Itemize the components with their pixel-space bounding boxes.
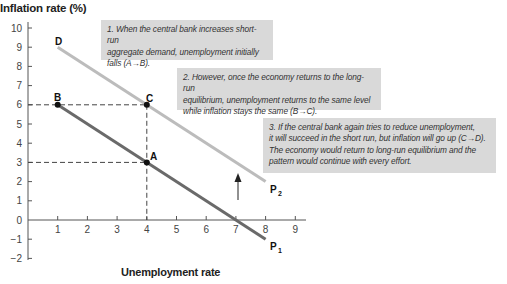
y-tick-6: 6 xyxy=(16,99,22,110)
curve-p1 xyxy=(58,105,266,239)
x-axis-title: Unemployment rate xyxy=(121,266,220,278)
curve-p1-label: P 1 xyxy=(270,241,282,254)
x-tick-2: 2 xyxy=(85,224,91,235)
point-a xyxy=(144,159,150,165)
x-tick-5: 5 xyxy=(174,224,180,235)
y-tick-2: 2 xyxy=(16,176,22,187)
curve-p2-label: P 2 xyxy=(270,184,282,197)
x-axis: 1 2 3 4 5 6 7 8 9 xyxy=(28,216,306,235)
x-tick-3: 3 xyxy=(114,224,120,235)
y-tick-10: 10 xyxy=(11,23,23,34)
x-tick-1: 1 xyxy=(55,224,61,235)
x-tick-4: 4 xyxy=(144,224,150,235)
y-axis: 10 9 8 7 6 5 4 3 2 1 0 −1 −2 xyxy=(11,22,32,264)
y-tick-9: 9 xyxy=(16,42,22,53)
x-tick-6: 6 xyxy=(203,224,209,235)
svg-text:P: P xyxy=(270,241,277,252)
y-tick-4: 4 xyxy=(16,138,22,149)
y-tick-1: 1 xyxy=(16,195,22,206)
shift-up-arrow-icon xyxy=(235,173,242,200)
point-d-label: D xyxy=(55,36,62,47)
y-tick-5: 5 xyxy=(16,119,22,130)
svg-text:1: 1 xyxy=(278,247,282,254)
annotation-2: 2. However, once the economy returns to … xyxy=(177,68,381,110)
svg-text:P: P xyxy=(270,184,277,195)
annotation-1: 1. When the central bank increases short… xyxy=(101,20,273,60)
y-tick-0: 0 xyxy=(16,215,22,226)
x-tick-9: 9 xyxy=(293,224,299,235)
point-c-label: C xyxy=(146,93,153,104)
y-tick-7: 7 xyxy=(16,80,22,91)
y-tick-3: 3 xyxy=(16,157,22,168)
annotation-3: 3. If the central bank again tries to re… xyxy=(263,118,496,173)
y-tick-neg1: −1 xyxy=(11,234,23,245)
y-tick-8: 8 xyxy=(16,61,22,72)
svg-text:2: 2 xyxy=(278,190,282,197)
point-b-label: B xyxy=(54,92,61,103)
x-tick-7: 7 xyxy=(233,224,239,235)
guide-lines xyxy=(28,105,147,220)
x-tick-8: 8 xyxy=(263,224,269,235)
y-tick-neg2: −2 xyxy=(11,253,23,264)
point-a-label: A xyxy=(150,151,157,162)
